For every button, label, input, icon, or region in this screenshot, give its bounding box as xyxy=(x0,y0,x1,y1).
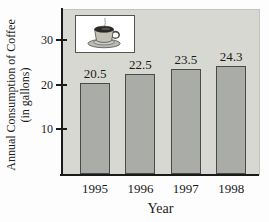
y-axis-title-line2: (in gallons) xyxy=(18,1,32,189)
x-category-label: 1996 xyxy=(118,181,162,196)
x-axis-title: Year xyxy=(62,201,259,217)
bar-value-label: 22.5 xyxy=(120,57,160,72)
bar-value-label: 24.3 xyxy=(211,49,251,64)
x-axis-line xyxy=(60,174,259,176)
bar-value-label: 20.5 xyxy=(75,66,115,81)
bar-1998 xyxy=(216,66,246,174)
x-category-label: 1995 xyxy=(73,181,117,196)
bar-1995 xyxy=(80,83,110,174)
coffee-bar-chart: 20.5199522.5199623.5199724.31998 102030 … xyxy=(0,0,269,222)
bar-1996 xyxy=(125,74,155,174)
bar-value-label: 23.5 xyxy=(166,52,206,67)
y-axis-line xyxy=(61,8,63,176)
coffee-cup-icon xyxy=(75,15,135,53)
y-axis-title-line1: Annual Consumption of Coffee xyxy=(4,1,18,189)
x-category-label: 1998 xyxy=(209,181,253,196)
y-axis-title: Annual Consumption of Coffee (in gallons… xyxy=(4,1,32,189)
x-category-label: 1997 xyxy=(164,181,208,196)
bar-1997 xyxy=(171,69,201,174)
